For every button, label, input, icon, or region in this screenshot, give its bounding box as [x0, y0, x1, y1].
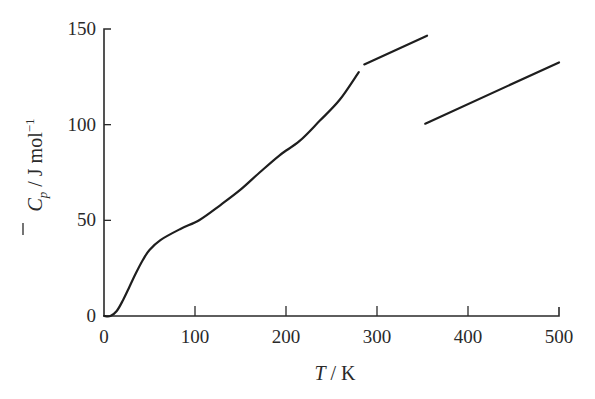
x-axis-title: T / K — [314, 362, 356, 384]
x-axis-line — [104, 307, 559, 316]
y-tick-label: 0 — [87, 305, 97, 326]
series-segment-3 — [425, 62, 559, 123]
y-tick-label: 100 — [68, 114, 97, 135]
y-axis-title-group: Cp / J mol−1 — [22, 118, 50, 235]
chart: 0100200300400500 050100150 T / K Cp / J … — [0, 0, 595, 399]
y-axis-title-superscript: −1 — [22, 118, 37, 132]
x-tick-label: 400 — [454, 326, 483, 347]
y-tick-label: 50 — [77, 209, 96, 230]
x-tick-label: 500 — [545, 326, 574, 347]
series-segment-1 — [104, 72, 359, 316]
y-axis-title-unit: / J mol — [24, 132, 46, 192]
x-tick-label: 100 — [181, 326, 210, 347]
x-ticks: 0100200300400500 — [99, 306, 573, 347]
axes — [104, 29, 559, 316]
series-segment-2 — [364, 36, 427, 65]
x-axis-title-unit: / K — [326, 362, 357, 384]
y-tick-label: 150 — [68, 18, 97, 39]
y-axis-title: Cp / J mol−1 — [22, 118, 50, 211]
y-axis-title-symbol: C — [24, 198, 46, 212]
x-tick-label: 300 — [363, 326, 392, 347]
x-tick-label: 200 — [272, 326, 301, 347]
x-tick-label: 0 — [99, 326, 109, 347]
y-axis-line — [104, 29, 111, 316]
series-group — [104, 36, 559, 317]
